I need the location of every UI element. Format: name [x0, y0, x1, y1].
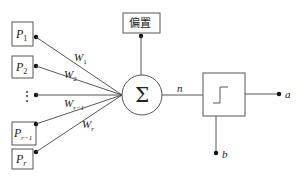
neuron-diagram: P1 P2 ⋮ Pr−1 Pr W1 W2 Wr−1 Wr 偏置 Σ n: [0, 0, 299, 182]
weight-label-w2: W2: [64, 68, 77, 83]
threshold-node: [214, 151, 218, 155]
weight-label-wr-1: Wr−1: [64, 97, 84, 112]
weight-connection-2: [36, 66, 122, 95]
threshold-label: b: [222, 148, 228, 160]
output-node: [277, 92, 281, 96]
weight-label-wr: Wr: [82, 118, 94, 133]
input-p1: P1: [12, 22, 38, 46]
weight-connection-1: [36, 37, 122, 95]
input-ellipsis: ⋮: [20, 89, 38, 104]
bias-label: 偏置: [129, 16, 151, 30]
output-label: a: [285, 88, 291, 100]
input-pr-1: Pr−1: [12, 122, 38, 145]
vertical-ellipsis: ⋮: [20, 89, 34, 104]
net-input-label: n: [177, 82, 183, 94]
transfer-function-box: [203, 73, 245, 116]
sigma-symbol: Σ: [135, 83, 149, 107]
input-p2: P2: [12, 56, 38, 78]
input-pr: Pr: [12, 149, 38, 169]
